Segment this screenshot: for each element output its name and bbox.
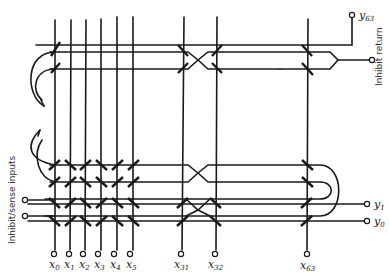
y0-label: y0 [373,215,385,229]
x5-terminal [127,251,132,256]
upper-windings [31,17,370,106]
x32-terminal [212,251,217,256]
x3-label: x3 [94,258,105,272]
x2-label: x2 [79,258,90,272]
terminals [22,12,374,256]
x0-terminal [51,251,56,256]
inhibit-return-label: Inhibit return [374,27,384,86]
x1-label: x1 [64,258,75,272]
return-arc-4 [37,140,55,182]
return-arc-1 [31,52,55,106]
x63-terminal [304,251,309,256]
inhibit-upper-b [50,52,338,69]
sense-winding-b [45,165,339,216]
x0-label: x0 [49,258,60,272]
x1-terminal [66,251,71,256]
x31-terminal [178,251,183,256]
x3-terminal [95,251,100,256]
y1-terminal [364,201,369,206]
lower-windings [28,130,365,221]
y0-terminal [364,218,369,223]
x32-label: x32 [208,258,224,272]
y63-label: y63 [358,9,375,23]
inhibit-upper-a [50,52,280,69]
y63-line [36,17,352,45]
x5-label: x5 [126,258,137,272]
inhibit-sense-inputs-label: Inhibit/sense inputs [7,155,17,244]
x31-label: x31 [174,258,189,272]
inhibit-input-2-terminal [22,213,27,218]
core [302,45,312,56]
x63-label: x63 [300,259,316,273]
y63-terminal [349,12,354,17]
x-labels: x0 x1 x2 x3 x4 x5 x31 x32 x63 [49,258,316,273]
x4-terminal [111,251,116,256]
return-arc-2 [36,69,55,100]
x2-terminal [80,251,85,256]
inhibit-input-1-terminal [22,197,27,202]
x4-label: x4 [110,258,121,272]
y1-label: y1 [373,198,385,212]
return-arc-3 [31,130,55,165]
core-memory-wiring-diagram: x0 x1 x2 x3 x4 x5 x31 x32 x63 y63 y1 y0 … [0,0,389,276]
